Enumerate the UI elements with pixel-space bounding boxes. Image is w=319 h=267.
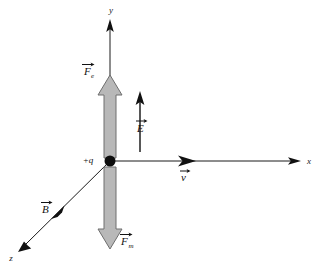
velocity-symbol: v: [181, 171, 186, 183]
physics-diagram: y x z +q F e F m E v: [0, 0, 319, 267]
axis-x: [110, 157, 301, 165]
charge-label: +q: [83, 155, 94, 165]
electric-force-subscript: e: [91, 72, 94, 80]
electric-field-label: E: [136, 119, 148, 134]
electric-force-label: F e: [82, 63, 95, 80]
magnetic-force-subscript: m: [129, 242, 134, 250]
magnetic-field-symbol: B: [42, 203, 49, 215]
diagram-canvas: y x z +q F e F m E v: [0, 0, 319, 267]
z-axis-label: z: [8, 253, 13, 263]
x-axis-label: x: [306, 156, 311, 166]
z-axis-line: [25, 161, 110, 245]
z-axis-arrowhead: [18, 241, 31, 252]
y-axis-label: y: [108, 5, 113, 15]
velocity-label: v: [180, 169, 191, 183]
magnetic-force-symbol: F: [120, 235, 128, 247]
electric-force-arrow: [98, 75, 122, 158]
magnetic-field-label: B: [41, 201, 53, 215]
magnetic-force-arrow: [98, 167, 122, 249]
magnetic-force-label: F m: [120, 233, 134, 250]
electric-force-arrow-shape: [98, 75, 122, 158]
electric-field-symbol: E: [136, 122, 144, 134]
electric-force-symbol: F: [83, 65, 91, 77]
magnetic-force-arrow-shape: [98, 167, 122, 249]
point-charge-dot: [105, 156, 116, 167]
